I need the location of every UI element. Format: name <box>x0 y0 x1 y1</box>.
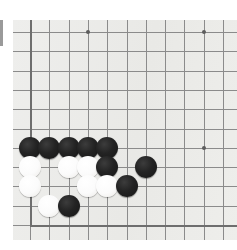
black-stone[interactable] <box>116 175 138 197</box>
black-stone[interactable] <box>135 156 157 178</box>
white-stone[interactable] <box>19 175 41 197</box>
stone-layer <box>13 20 237 240</box>
left-edge-bar-highlight <box>3 20 7 46</box>
black-stone[interactable] <box>58 195 80 217</box>
diagram-root <box>0 0 237 250</box>
go-board[interactable] <box>13 20 237 240</box>
page-bottom-margin <box>0 240 237 250</box>
